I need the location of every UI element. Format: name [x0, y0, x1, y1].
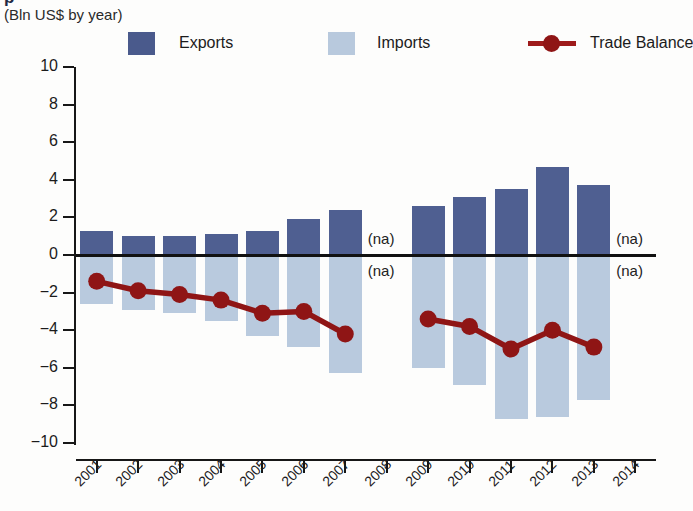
bar-exports — [163, 236, 196, 255]
bar-imports — [577, 255, 610, 400]
bar-exports — [329, 210, 362, 255]
bar-exports — [453, 197, 486, 255]
bar-imports — [536, 255, 569, 417]
y-tick — [63, 104, 74, 106]
x-tick-label: 2011 — [485, 457, 518, 490]
y-tick-label: −4 — [18, 320, 58, 338]
y-tick-label: 4 — [18, 170, 58, 188]
bar-exports — [80, 231, 113, 255]
bar-imports — [287, 255, 320, 347]
bar-imports — [80, 255, 113, 304]
na-label: (na) — [368, 262, 395, 279]
x-axis-line — [76, 459, 656, 461]
y-tick — [63, 367, 74, 369]
y-tick-label: 10 — [18, 57, 58, 75]
bar-imports — [329, 255, 362, 373]
y-tick-label: −2 — [18, 283, 58, 301]
na-label: (na) — [616, 262, 643, 279]
y-tick-label: 2 — [18, 207, 58, 225]
y-tick-label: −8 — [18, 395, 58, 413]
zero-line — [76, 254, 656, 257]
bar-imports — [246, 255, 279, 336]
bar-imports — [205, 255, 238, 321]
bar-imports — [163, 255, 196, 313]
y-tick — [63, 404, 74, 406]
y-tick-label: −6 — [18, 358, 58, 376]
y-tick — [63, 329, 74, 331]
y-tick — [63, 216, 74, 218]
y-tick-label: 8 — [18, 95, 58, 113]
y-tick — [63, 66, 74, 68]
bar-imports — [122, 255, 155, 310]
bar-exports — [412, 206, 445, 255]
y-tick-label: 0 — [18, 245, 58, 263]
y-tick-label: −10 — [18, 433, 58, 451]
bar-imports — [412, 255, 445, 368]
bar-imports — [453, 255, 486, 385]
y-tick — [63, 442, 74, 444]
bar-exports — [287, 219, 320, 255]
na-label: (na) — [368, 230, 395, 247]
na-label: (na) — [616, 230, 643, 247]
bar-exports — [577, 185, 610, 255]
y-tick — [63, 141, 74, 143]
bar-imports — [495, 255, 528, 419]
y-tick-label: 6 — [18, 132, 58, 150]
bar-exports — [122, 236, 155, 255]
y-tick — [63, 292, 74, 294]
bar-exports — [205, 234, 238, 255]
y-tick — [63, 254, 74, 256]
bar-exports — [536, 167, 569, 255]
y-tick — [63, 179, 74, 181]
bar-exports — [246, 231, 279, 255]
bar-exports — [495, 189, 528, 255]
